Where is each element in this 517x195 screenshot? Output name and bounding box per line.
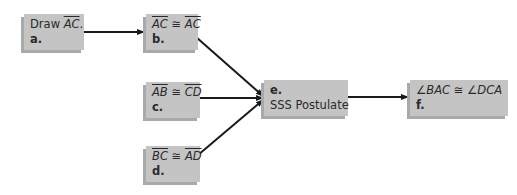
node-b: AC ≅ AC b.: [146, 14, 198, 50]
arrow-d-to-e: [198, 100, 263, 155]
flow-proof-diagram: Draw AC. a. AC ≅ AC b. AB ≅ CD c. BC ≅ A…: [0, 0, 517, 195]
node-f-label: f.: [416, 98, 502, 113]
arrow-b-to-e: [196, 37, 263, 96]
node-d: BC ≅ AD d.: [146, 146, 200, 182]
node-c: AB ≅ CD c.: [146, 82, 200, 118]
node-b-label: b.: [152, 32, 192, 47]
node-e-statement: SSS Postulate: [270, 98, 342, 113]
node-e-label: e.: [270, 83, 342, 98]
node-c-statement: AB ≅ CD: [152, 85, 194, 100]
node-c-label: c.: [152, 100, 194, 115]
node-a-statement: Draw AC.: [30, 17, 78, 32]
node-f: ∠BAC ≅ ∠DCA f.: [410, 80, 508, 116]
node-d-statement: BC ≅ AD: [152, 149, 194, 164]
node-b-statement: AC ≅ AC: [152, 17, 192, 32]
node-e: e. SSS Postulate: [264, 80, 348, 116]
node-a-label: a.: [30, 32, 78, 47]
node-f-statement: ∠BAC ≅ ∠DCA: [416, 83, 502, 98]
node-a: Draw AC. a.: [24, 14, 84, 50]
node-d-label: d.: [152, 164, 194, 179]
